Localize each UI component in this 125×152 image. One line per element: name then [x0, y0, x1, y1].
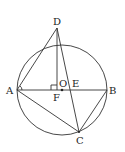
geometry-diagram: D A B C O E F: [0, 0, 125, 152]
label-d: D: [53, 16, 61, 27]
label-f: F: [53, 92, 60, 103]
right-angle-mark: [51, 85, 57, 90]
label-c: C: [76, 135, 84, 146]
label-b: B: [109, 85, 116, 96]
segment-ad: [17, 28, 57, 90]
point-o: [61, 89, 64, 92]
label-o: O: [59, 78, 67, 89]
point-c: [78, 131, 80, 133]
label-a: A: [5, 85, 14, 96]
segment-bc: [79, 90, 107, 132]
label-e: E: [72, 78, 79, 89]
segment-ac: [17, 90, 79, 132]
angle-mark-a: [20, 86, 22, 90]
